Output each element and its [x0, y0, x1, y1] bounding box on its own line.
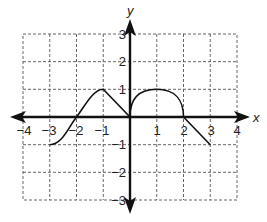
x-axis-label: x — [252, 110, 260, 125]
y-tick-label: 3 — [119, 27, 126, 42]
x-tick-label: −2 — [69, 123, 84, 138]
x-tick-label: −1 — [95, 123, 110, 138]
y-tick-label: −1 — [111, 137, 126, 152]
x-tick-label: 4 — [233, 123, 240, 138]
coordinate-graph: y x −4 −3 −2 −1 1 2 3 4 3 2 1 −1 −2 −3 — [0, 0, 267, 222]
y-tick-label: 1 — [119, 82, 126, 97]
x-tick-label: −3 — [42, 123, 57, 138]
x-tick-label: 2 — [180, 123, 187, 138]
x-tick-label: 1 — [153, 123, 160, 138]
y-axis-label: y — [126, 3, 135, 18]
y-tick-label: 2 — [119, 54, 126, 69]
x-tick-labels: −4 −3 −2 −1 1 2 3 4 — [17, 123, 241, 138]
x-tick-label: 3 — [207, 123, 214, 138]
y-tick-label: −3 — [111, 193, 126, 208]
y-tick-label: −2 — [111, 165, 126, 180]
x-tick-label: −4 — [17, 123, 32, 138]
